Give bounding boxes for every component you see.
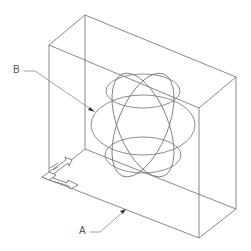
sphere-wireframe xyxy=(91,65,195,186)
leader-b xyxy=(24,71,95,112)
leader-a xyxy=(90,209,126,232)
label-a: A xyxy=(79,226,86,236)
drawing-canvas xyxy=(0,0,251,251)
box-wireframe xyxy=(42,15,236,238)
label-b: B xyxy=(13,65,20,75)
